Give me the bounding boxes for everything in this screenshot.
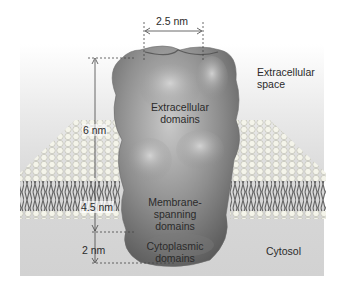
lipid-bilayer-right [230,120,326,219]
protein-structure [112,46,239,267]
extracellular-domains-label: Extracellular domains [140,101,220,125]
cytoplasmic-height-label: 2 nm [82,244,105,256]
cytosol-label: Cytosol [266,245,301,257]
membrane-protein-diagram: 2.5 nm Extracellular space Extracellular… [0,0,344,289]
membrane-thickness-label: 4.5 nm [80,201,114,213]
membrane-spanning-domains-label: Membrane- spanning domains [140,196,210,232]
width-measurement-label: 2.5 nm [156,15,188,27]
extracellular-space-label: Extracellular space [257,66,315,90]
extracellular-height-label: 6 nm [82,124,107,136]
cytoplasmic-domains-label: Cytoplasmic domains [140,240,210,264]
